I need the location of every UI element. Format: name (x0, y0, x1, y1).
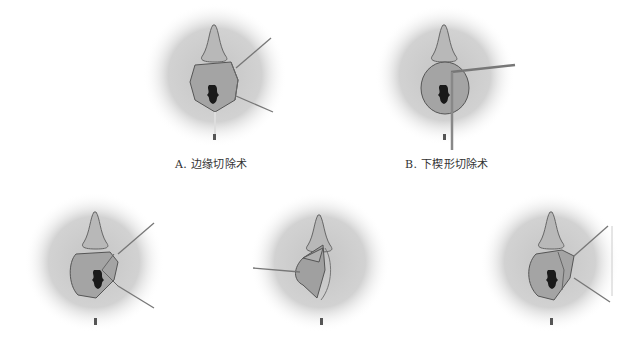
panel-a-illustration (143, 0, 293, 150)
panel-d-illustration (245, 190, 395, 340)
panel-b-illustration (375, 0, 535, 150)
panel-c-illustration (18, 190, 168, 340)
panel-a-caption: A. 边缘切除术 (175, 155, 247, 171)
panel-e-illustration (478, 190, 638, 340)
panel-b-caption: B. 下楔形切除术 (405, 155, 489, 171)
